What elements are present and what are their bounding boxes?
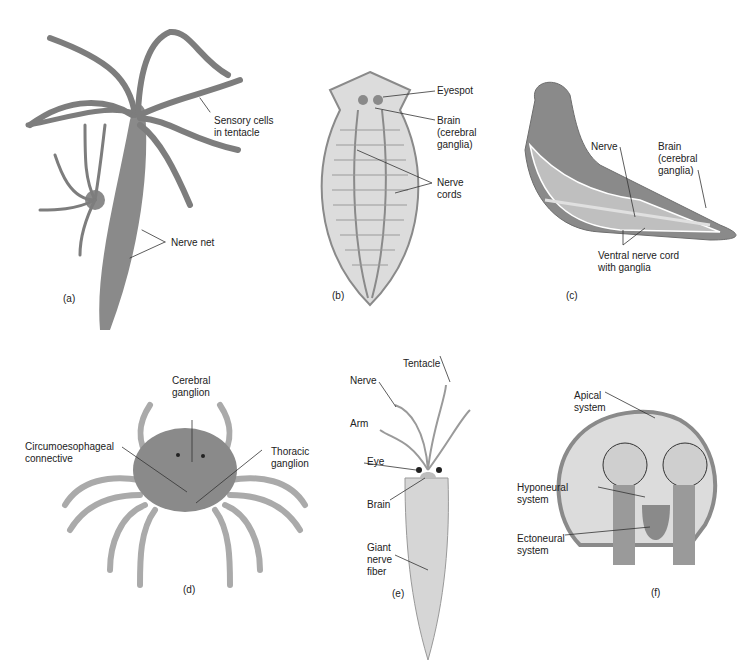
label-hyponeural-system: Hyponeural system xyxy=(517,482,568,506)
crab-illustration xyxy=(65,405,305,585)
label-cerebral-ganglion: Cerebral ganglion xyxy=(172,375,210,399)
label-eyespot: Eyespot xyxy=(437,85,473,97)
label-thoracic-ganglion: Thoracic ganglion xyxy=(271,446,309,470)
panel-letter-e: (e) xyxy=(392,588,404,599)
label-arm: Arm xyxy=(350,418,368,430)
label-apical-system: Apical system xyxy=(574,390,606,414)
label-circumoesophageal: Circumoesophageal connective xyxy=(25,441,114,465)
label-nerve-net: Nerve net xyxy=(171,237,214,249)
label-sensory-cells: Sensory cells in tentacle xyxy=(214,115,273,139)
label-nerve-cords: Nerve cords xyxy=(437,177,464,201)
label-brain-squid: Brain xyxy=(367,499,390,511)
panel-letter-b: (b) xyxy=(332,290,344,301)
hydra-illustration xyxy=(28,32,240,330)
label-brain-worm: Brain (cerebral ganglia) xyxy=(658,141,697,177)
label-ectoneural-system: Ectoneural system xyxy=(517,533,565,557)
label-tentacle: Tentacle xyxy=(403,358,440,370)
panel-letter-d: (d) xyxy=(183,584,195,595)
label-nerve-worm: Nerve xyxy=(591,141,618,153)
earthworm-illustration xyxy=(525,82,736,245)
flatworm-illustration xyxy=(322,72,435,305)
sea-star-illustration xyxy=(559,392,716,565)
label-ventral-nerve-cord: Ventral nerve cord with ganglia xyxy=(598,250,679,274)
label-nerve-squid: Nerve xyxy=(350,375,377,387)
panel-letter-a: (a) xyxy=(63,293,75,304)
label-brain-flatworm: Brain (cerebral ganglia) xyxy=(437,115,476,151)
label-eye: Eye xyxy=(367,456,384,468)
label-giant-nerve-fiber: Giant nerve fiber xyxy=(367,542,392,578)
panel-letter-f: (f) xyxy=(651,587,660,598)
panel-letter-c: (c) xyxy=(566,290,578,301)
